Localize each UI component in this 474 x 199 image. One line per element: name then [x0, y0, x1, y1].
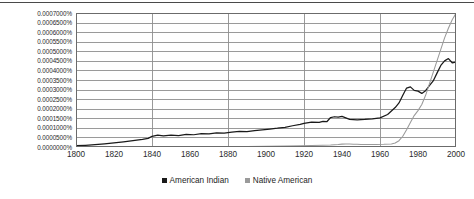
legend-label: Native American [253, 176, 313, 185]
legend-label: American Indian [170, 176, 229, 185]
x-axis-tick-labels: 1800182018401860188019001920194019601980… [0, 150, 474, 164]
y-axis-tick-label: 0.0005500% [0, 38, 72, 45]
x-axis-tick-label: 1960 [371, 150, 389, 159]
legend-item: American Indian [162, 176, 229, 185]
y-axis-tick-label: 0.0006000% [0, 29, 72, 36]
chart-legend: American IndianNative American [0, 172, 474, 188]
series-line [76, 59, 456, 146]
vertical-gridlines [153, 13, 381, 147]
x-axis-tick-label: 2000 [447, 150, 465, 159]
y-axis-tick-label: 0.0002500% [0, 96, 72, 103]
y-axis-tick-label: 0.0002000% [0, 105, 72, 112]
x-axis-tick-label: 1920 [295, 150, 313, 159]
y-axis-tick-label: 0.0007000% [0, 10, 72, 17]
y-axis-tick-label: 0.0001000% [0, 124, 72, 131]
plot-area [76, 13, 456, 147]
plot-svg [76, 13, 456, 147]
y-axis-tick-label: 0.0004500% [0, 57, 72, 64]
legend-swatch-icon [162, 178, 167, 183]
horizontal-gridlines [76, 24, 456, 138]
x-axis-tick-label: 1980 [409, 150, 427, 159]
y-axis-tick-label: 0.0003000% [0, 86, 72, 93]
legend-swatch-icon [245, 178, 250, 183]
y-axis-tick-labels: 0.0007000%0.0006500%0.0006000%0.0005500%… [0, 0, 72, 160]
y-axis-tick-label: 0.0001500% [0, 115, 72, 122]
ngram-frequency-chart: 0.0007000%0.0006500%0.0006000%0.0005500%… [0, 0, 474, 199]
x-axis-tick-label: 1880 [219, 150, 237, 159]
plot-border [77, 14, 456, 147]
y-axis-tick-label: 0.0005000% [0, 48, 72, 55]
y-axis-tick-label: 0.0006500% [0, 19, 72, 26]
x-axis-tick-label: 1800 [67, 150, 85, 159]
x-axis-tick-label: 1840 [143, 150, 161, 159]
y-axis-tick-label: 0.0003500% [0, 77, 72, 84]
y-axis-tick-label: 0.0004000% [0, 67, 72, 74]
y-axis-tick-label: 0.0000500% [0, 134, 72, 141]
legend-item: Native American [245, 176, 313, 185]
x-axis-tick-label: 1940 [333, 150, 351, 159]
x-axis-tick-label: 1900 [257, 150, 275, 159]
x-axis-tick-label: 1860 [181, 150, 199, 159]
x-axis-tick-label: 1820 [105, 150, 123, 159]
